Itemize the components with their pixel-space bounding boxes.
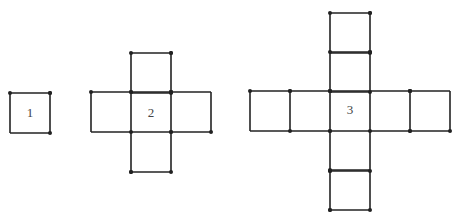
- match-head-icon: [328, 11, 332, 15]
- match-head-icon: [89, 90, 93, 94]
- match-head-icon: [328, 89, 332, 93]
- matchstick-figures: [0, 0, 459, 216]
- match-head-icon: [368, 11, 372, 15]
- match-head-icon: [169, 90, 173, 94]
- match-head-icon: [169, 51, 173, 55]
- match-head-icon: [328, 50, 332, 54]
- figure-2-label: 2: [148, 105, 155, 121]
- match-head-icon: [129, 170, 133, 174]
- match-head-icon: [129, 51, 133, 55]
- match-head-icon: [8, 91, 12, 95]
- figure-3-label: 3: [347, 102, 354, 118]
- match-head-icon: [328, 208, 332, 212]
- match-head-icon: [248, 89, 252, 93]
- match-head-icon: [408, 89, 412, 93]
- match-head-icon: [368, 50, 372, 54]
- match-head-icon: [48, 131, 52, 135]
- diagram-canvas: 1 2 3: [0, 0, 459, 216]
- figure-1-label: 1: [27, 105, 34, 121]
- match-head-icon: [48, 91, 52, 95]
- match-head-icon: [408, 129, 412, 133]
